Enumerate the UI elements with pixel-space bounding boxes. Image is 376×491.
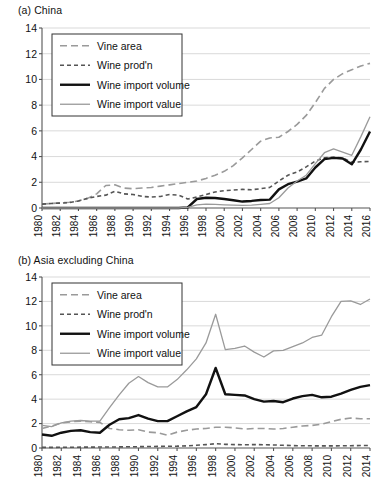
ytick-label-6: 6 <box>31 369 37 381</box>
figure-root: (a) China 024681012141980198219841986198… <box>0 0 376 491</box>
xtick-label-2000: 2000 <box>226 455 237 478</box>
legend-label-wine_prodn: Wine prod'n <box>97 308 153 320</box>
xtick-label-2014: 2014 <box>343 215 354 238</box>
legend-label-vine_area: Vine area <box>97 40 142 52</box>
series-line-wine_prodn <box>42 444 370 448</box>
xtick-label-1996: 1996 <box>179 215 190 238</box>
xtick-label-2014: 2014 <box>361 455 372 478</box>
xtick-label-2010: 2010 <box>306 215 317 238</box>
xtick-label-1996: 1996 <box>187 455 198 478</box>
chart-panel-b: (b) Asia excluding China 024681012141980… <box>0 250 376 491</box>
xtick-label-1984: 1984 <box>72 455 83 478</box>
legend-label-wine_import_volume: Wine import volume <box>97 79 190 91</box>
xtick-label-1980: 1980 <box>33 215 44 238</box>
xtick-label-1990: 1990 <box>124 215 135 238</box>
series-line-wine_import_volume <box>42 368 370 436</box>
xtick-label-1994: 1994 <box>168 455 179 478</box>
ytick-label-12: 12 <box>25 295 37 307</box>
legend-label-wine_import_volume: Wine import volume <box>97 328 190 340</box>
xtick-label-2004: 2004 <box>252 215 263 238</box>
xtick-label-2010: 2010 <box>322 455 333 478</box>
ytick-label-4: 4 <box>31 150 37 162</box>
ytick-label-2: 2 <box>31 417 37 429</box>
legend-label-wine_import_value: Wine import value <box>97 98 181 110</box>
xtick-label-1990: 1990 <box>129 455 140 478</box>
ytick-label-0: 0 <box>31 442 37 454</box>
xtick-label-1986: 1986 <box>91 455 102 478</box>
xtick-label-1980: 1980 <box>33 455 44 478</box>
ytick-label-12: 12 <box>25 48 37 60</box>
xtick-label-1982: 1982 <box>52 455 63 478</box>
legend-label-wine_prodn: Wine prod'n <box>97 59 153 71</box>
xtick-label-2012: 2012 <box>325 215 336 238</box>
panel-b-svg: 0246810121419801982198419861988199019921… <box>0 250 376 491</box>
legend-label-vine_area: Vine area <box>97 289 142 301</box>
xtick-label-1998: 1998 <box>207 455 218 478</box>
ytick-label-6: 6 <box>31 125 37 137</box>
xtick-label-1988: 1988 <box>106 215 117 238</box>
ytick-label-2: 2 <box>31 176 37 188</box>
xtick-label-2012: 2012 <box>342 455 353 478</box>
panel-a-plot-area: 0246810121419801982198419861988199019921… <box>0 0 376 250</box>
xtick-label-1982: 1982 <box>51 215 62 238</box>
xtick-label-2002: 2002 <box>233 215 244 238</box>
xtick-label-2006: 2006 <box>270 215 281 238</box>
xtick-label-2002: 2002 <box>245 455 256 478</box>
xtick-label-1988: 1988 <box>110 455 121 478</box>
ytick-label-8: 8 <box>31 99 37 111</box>
xtick-label-1984: 1984 <box>69 215 80 238</box>
legend-label-wine_import_value: Wine import value <box>97 347 181 359</box>
xtick-label-2008: 2008 <box>288 215 299 238</box>
xtick-label-1994: 1994 <box>161 215 172 238</box>
ytick-label-8: 8 <box>31 344 37 356</box>
ytick-label-0: 0 <box>31 202 37 214</box>
xtick-label-1986: 1986 <box>88 215 99 238</box>
ytick-label-14: 14 <box>25 22 37 34</box>
panel-a-svg: 0246810121419801982198419861988199019921… <box>0 0 376 250</box>
ytick-label-4: 4 <box>31 393 37 405</box>
xtick-label-1998: 1998 <box>197 215 208 238</box>
ytick-label-10: 10 <box>25 73 37 85</box>
xtick-label-2004: 2004 <box>265 455 276 478</box>
xtick-label-2008: 2008 <box>303 455 314 478</box>
ytick-label-14: 14 <box>25 271 37 283</box>
xtick-label-2016: 2016 <box>361 215 372 238</box>
panel-b-plot-area: 0246810121419801982198419861988199019921… <box>0 250 376 491</box>
xtick-label-2000: 2000 <box>215 215 226 238</box>
xtick-label-1992: 1992 <box>142 215 153 238</box>
chart-panel-a: (a) China 024681012141980198219841986198… <box>0 0 376 250</box>
xtick-label-2006: 2006 <box>284 455 295 478</box>
xtick-label-1992: 1992 <box>149 455 160 478</box>
ytick-label-10: 10 <box>25 320 37 332</box>
